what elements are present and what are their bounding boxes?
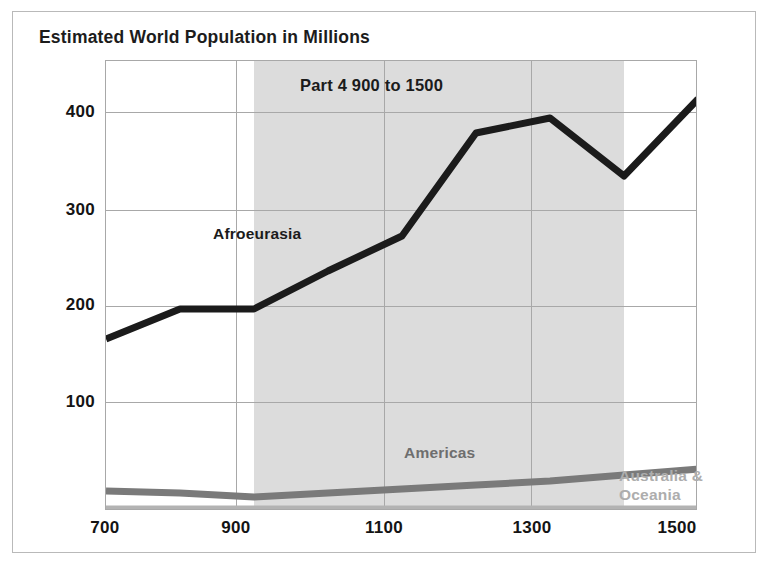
series-line-afroeurasia: [106, 99, 697, 339]
australia-label-line-1: Australia &: [619, 467, 703, 484]
x-axis-tick-700: 700: [65, 518, 145, 538]
series-label-americas: Americas: [404, 444, 475, 462]
series-line-americas: [106, 469, 697, 497]
x-axis-tick-1500: 1500: [637, 518, 717, 538]
y-axis-tick-300: 300: [33, 200, 95, 220]
x-axis-tick-1300: 1300: [492, 518, 572, 538]
chart-title: Estimated World Population in Millions: [39, 27, 370, 48]
series-label-australia-oceania: Australia & Oceania: [619, 466, 703, 504]
band-annotation-label: Part 4 900 to 1500: [300, 76, 443, 95]
series-label-afroeurasia: Afroeurasia: [213, 225, 301, 243]
y-axis-tick-200: 200: [33, 295, 95, 315]
x-axis-tick-1100: 1100: [344, 518, 424, 538]
y-axis-tick-400: 400: [33, 102, 95, 122]
plot-area: [105, 60, 697, 510]
australia-label-line-2: Oceania: [619, 486, 681, 503]
chart-figure: Estimated World Population in Millions 4…: [0, 0, 769, 567]
y-axis-tick-100: 100: [33, 392, 95, 412]
x-axis-tick-900: 900: [196, 518, 276, 538]
plot-svg: [106, 61, 697, 510]
